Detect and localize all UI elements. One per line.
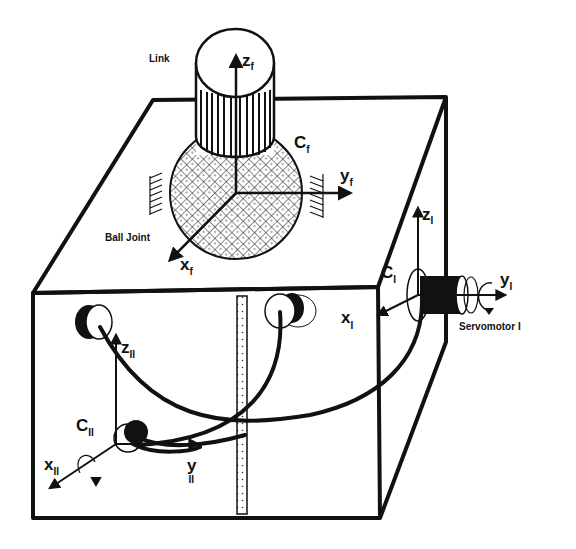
x-II-label: xII [44, 455, 59, 477]
z-I-label: zI [422, 205, 434, 226]
y-II-label: yII [187, 456, 197, 485]
ball-joint-label: Ball Joint [105, 232, 151, 243]
x-f-label: xf [180, 255, 193, 277]
frame-II-axes [50, 335, 198, 488]
y-I-label: yI [500, 270, 512, 292]
cable [100, 305, 422, 452]
rotation-arrow-icon [484, 308, 494, 315]
link-label: Link [149, 53, 170, 64]
z-II-label: zII [121, 338, 135, 360]
rotation-arrow-icon [92, 478, 100, 485]
c-II-label: CII [76, 416, 94, 438]
wall-support-left [150, 173, 162, 215]
pulley-top-left [75, 305, 112, 339]
pulley-top-right [265, 293, 316, 328]
wall-support-right [310, 174, 323, 218]
x-I-label: xI [341, 308, 353, 331]
servomotor-label: Servomotor I [459, 321, 521, 332]
dotted-rail [237, 296, 247, 514]
y-f-label: yf [340, 166, 353, 188]
mechanism-diagram: Link Ball Joint Servomotor I zf Cf yf xf… [0, 0, 576, 549]
c-f-label: Cf [294, 133, 310, 155]
c-I-label: CI [381, 263, 396, 285]
